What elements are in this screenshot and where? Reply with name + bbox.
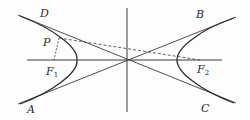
dashed-p-f2 bbox=[59, 38, 200, 60]
label-b: B bbox=[195, 8, 204, 21]
diagram-canvas: D B A C P F1 F2 bbox=[0, 0, 250, 120]
label-f2: F2 bbox=[196, 63, 209, 77]
label-f1: F1 bbox=[45, 65, 58, 79]
label-d: D bbox=[39, 7, 49, 20]
hyperbola-diagram: D B A C P F1 F2 bbox=[0, 0, 250, 120]
label-c: C bbox=[201, 102, 210, 115]
label-a: A bbox=[26, 103, 35, 116]
label-p: P bbox=[42, 36, 51, 49]
dashed-p-f1 bbox=[54, 38, 59, 60]
